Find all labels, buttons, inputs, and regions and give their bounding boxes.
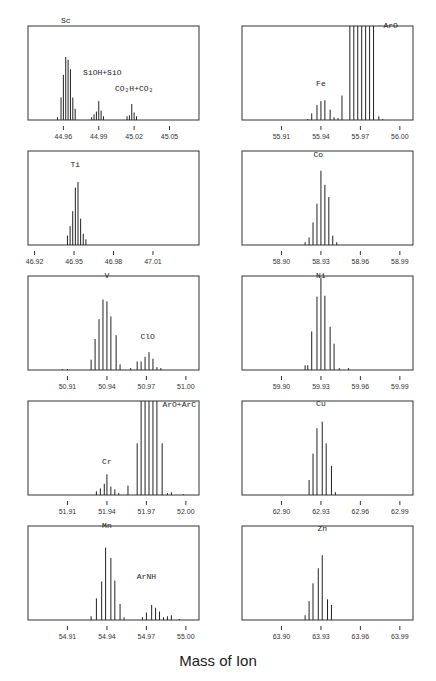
x-tick-label: 56.00 (391, 133, 409, 140)
x-tick-label: 55.97 (352, 133, 370, 140)
spectrum-panel-aro-arc: 51.9151.9451.9752.00CrArO+ArC (28, 400, 199, 515)
x-tick-label: 44.99 (90, 133, 108, 140)
x-tick-label: 62.96 (352, 508, 370, 515)
x-axis-label: Mass of Ion (0, 652, 436, 669)
spectrum-panel-zn: 63.9063.9363.9663.99Zn (242, 524, 413, 640)
x-tick-label: 59.90 (273, 383, 291, 390)
spectrum-panel-sc: 44.9644.9945.0245.05ScSiOH+SiOCO₂H+CO₂ (28, 16, 199, 140)
peak-annotation: ClO (140, 332, 155, 341)
x-tick-label: 63.99 (391, 633, 409, 640)
spectrum-panel-ni: 59.9059.9359.9659.99Ni (242, 271, 413, 390)
x-tick-label: 62.93 (312, 508, 330, 515)
plot-frame (28, 151, 199, 245)
peak-annotation: Co (313, 150, 323, 159)
peak-annotation: ArO (383, 21, 398, 30)
x-tick-label: 63.96 (352, 633, 370, 640)
peak-annotation: Mn (102, 521, 112, 530)
plot-frame (242, 401, 413, 495)
plot-frame (242, 151, 413, 245)
x-tick-label: 51.94 (98, 508, 116, 515)
peak-annotation: SiOH+SiO (83, 68, 122, 77)
spectrum-panel-mn: 54.9154.9454.9755.00MnArNH (28, 521, 199, 640)
plot-frame (28, 276, 199, 370)
x-tick-label: 58.96 (352, 258, 370, 265)
x-tick-label: 63.90 (273, 633, 291, 640)
peak-annotation: CO₂H+CO₂ (115, 84, 153, 93)
peak-annotation: Cr (102, 457, 112, 466)
x-tick-label: 55.94 (312, 133, 330, 140)
x-tick-label: 62.90 (273, 508, 291, 515)
peak-annotation: Ti (71, 160, 81, 169)
x-tick-label: 54.91 (59, 633, 77, 640)
peak-annotation: ArO+ArC (162, 400, 196, 409)
x-tick-label: 59.93 (312, 383, 330, 390)
x-tick-label: 58.93 (312, 258, 330, 265)
peak-annotation: Fe (316, 79, 326, 88)
x-tick-label: 46.98 (105, 258, 123, 265)
figure: 44.9644.9945.0245.05ScSiOH+SiOCO₂H+CO₂55… (0, 0, 436, 681)
plot-frame (28, 401, 199, 495)
peak-annotation: Zn (317, 524, 327, 533)
x-tick-label: 47.01 (144, 258, 162, 265)
plot-frame (242, 276, 413, 370)
x-tick-label: 50.91 (59, 383, 77, 390)
x-tick-label: 62.99 (391, 508, 409, 515)
x-tick-label: 54.94 (98, 633, 116, 640)
x-tick-label: 55.91 (273, 133, 291, 140)
x-tick-label: 59.99 (391, 383, 409, 390)
peak-annotation: Ni (316, 271, 326, 280)
x-tick-label: 50.97 (138, 383, 156, 390)
x-tick-label: 51.91 (59, 508, 77, 515)
x-tick-label: 51.97 (138, 508, 156, 515)
x-tick-label: 63.93 (312, 633, 330, 640)
peak-annotation: ArNH (137, 572, 156, 581)
spectrum-panel-ti: 46.9246.9546.9847.01Ti (26, 151, 199, 265)
spectrum-panel-cu: 62.9062.9362.9662.99Cu (242, 399, 413, 515)
x-tick-label: 46.95 (65, 258, 83, 265)
x-tick-label: 44.96 (55, 133, 73, 140)
x-tick-label: 54.97 (138, 633, 156, 640)
spectrum-panel-v: 50.9150.9450.9751.00VClO (28, 271, 199, 390)
x-tick-label: 58.99 (391, 258, 409, 265)
spectrum-panel-aro: 55.9155.9455.9756.00FeArO (242, 21, 413, 140)
spectrum-panel-co: 58.9058.9358.9658.99Co (242, 150, 413, 265)
plot-frame (242, 26, 413, 120)
plot-frame (28, 526, 199, 620)
x-tick-label: 45.02 (125, 133, 143, 140)
x-tick-label: 55.00 (177, 633, 195, 640)
peak-annotation: Cu (316, 399, 326, 408)
x-tick-label: 59.96 (352, 383, 370, 390)
peak-annotation: V (105, 271, 110, 280)
x-tick-label: 51.00 (177, 383, 195, 390)
x-tick-label: 58.90 (273, 258, 291, 265)
x-tick-label: 45.05 (161, 133, 179, 140)
x-tick-label: 52.00 (177, 508, 195, 515)
x-tick-label: 50.94 (98, 383, 116, 390)
peak-annotation: Sc (61, 16, 71, 25)
x-tick-label: 46.92 (26, 258, 44, 265)
